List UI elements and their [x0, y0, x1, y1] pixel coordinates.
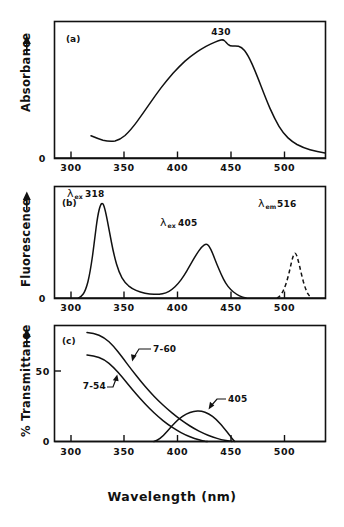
spectroscopy-figure: (a) 300 350 400 450 500 430 Absorbance 0 — [0, 0, 344, 527]
panel-a-tag: (a) — [66, 34, 80, 44]
absorbance-peak-label: 430 — [211, 27, 231, 37]
panel-c-yzero: 0 — [43, 436, 50, 447]
filter-405-annotation: 405 — [209, 394, 248, 409]
svg-text:λ: λ — [160, 216, 167, 229]
panel-b: (b) 300 350 400 450 500 λ ex 318 λ ex — [19, 187, 326, 314]
panel-a-xtick-400: 400 — [167, 162, 189, 173]
panel-b-xtick-300: 300 — [60, 302, 82, 313]
panel-c-ytick-50: 50 — [36, 366, 50, 377]
panel-c-xticks — [71, 435, 285, 442]
panel-c-xtick-350: 350 — [113, 446, 135, 457]
filter-7-54-curve — [87, 355, 208, 442]
panel-a: (a) 300 350 400 450 500 430 Absorbance 0 — [19, 22, 326, 174]
lambda-ex-405-label: λ ex 405 — [160, 216, 198, 229]
svg-text:ex: ex — [75, 193, 83, 200]
svg-text:405: 405 — [178, 218, 198, 228]
panel-b-xticks — [71, 292, 285, 299]
panel-c-xtick-400: 400 — [167, 446, 189, 457]
svg-text:λ: λ — [67, 187, 74, 200]
panel-c-xtick-300: 300 — [60, 446, 82, 457]
svg-text:em: em — [266, 203, 277, 210]
xaxis-title: Wavelength (nm) — [107, 489, 236, 504]
panel-a-xticks — [71, 152, 285, 159]
svg-text:516: 516 — [277, 199, 297, 209]
panel-c-xtick-450: 450 — [220, 446, 242, 457]
panel-a-xtick-300: 300 — [60, 162, 82, 173]
panel-a-xtick-350: 350 — [113, 162, 135, 173]
panel-b-xtick-500: 500 — [274, 302, 296, 313]
svg-text:7-54: 7-54 — [83, 381, 106, 391]
panel-b-ylabel: Fluorescence — [19, 198, 33, 287]
svg-text:ex: ex — [168, 222, 176, 229]
panel-a-yzero: 0 — [39, 153, 46, 164]
panel-c-xtick-500: 500 — [274, 446, 296, 457]
lambda-em-516-label: λ em 516 — [258, 197, 297, 210]
panel-a-xtick-500: 500 — [274, 162, 296, 173]
svg-text:405: 405 — [228, 394, 247, 404]
panel-b-xtick-350: 350 — [113, 302, 135, 313]
panel-b-xtick-450: 450 — [220, 302, 242, 313]
fluorescence-emission-curve — [277, 253, 312, 298]
panel-c-tag: (c) — [62, 336, 76, 346]
absorbance-curve — [91, 40, 325, 153]
filter-7-60-annotation: 7-60 — [131, 344, 176, 362]
panel-b-xtick-400: 400 — [167, 302, 189, 313]
panel-a-xtick-450: 450 — [220, 162, 242, 173]
filter-7-54-annotation: 7-54 — [83, 375, 119, 391]
filter-405-curve — [154, 411, 235, 442]
svg-text:7-60: 7-60 — [153, 344, 176, 354]
svg-text:λ: λ — [258, 197, 265, 210]
panel-c: (c) 300 350 400 450 500 7-60 — [19, 324, 326, 456]
lambda-ex-318-label: λ ex 318 — [67, 187, 105, 200]
svg-text:318: 318 — [85, 189, 105, 199]
panel-b-yzero: 0 — [39, 293, 46, 304]
